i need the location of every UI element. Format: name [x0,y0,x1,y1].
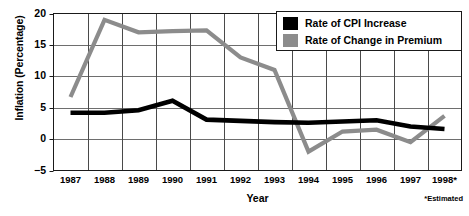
y-tick-label: 0 [22,132,46,144]
x-tick-label: 1998* [423,174,467,185]
legend-swatch-cpi [283,17,298,30]
legend-item-cpi: Rate of CPI Increase [283,15,461,32]
chart-figure: Inflation (Percentage) Year *Estimated 2… [0,0,469,216]
legend-label-premium: Rate of Change in Premium [305,34,442,47]
legend-swatch-premium [283,34,298,47]
y-tick-label: 10 [22,69,46,81]
axis-ticks [50,15,54,172]
legend-item-premium: Rate of Change in Premium [283,32,461,49]
y-tick-label: 20 [22,7,46,19]
y-tick-label: 5 [22,101,46,113]
y-tick-label: −5 [22,164,46,176]
y-tick-label: 15 [22,38,46,50]
legend-label-cpi: Rate of CPI Increase [305,17,407,30]
chart-legend: Rate of CPI Increase Rate of Change in P… [276,11,462,51]
line-cpi-increase [71,101,445,129]
